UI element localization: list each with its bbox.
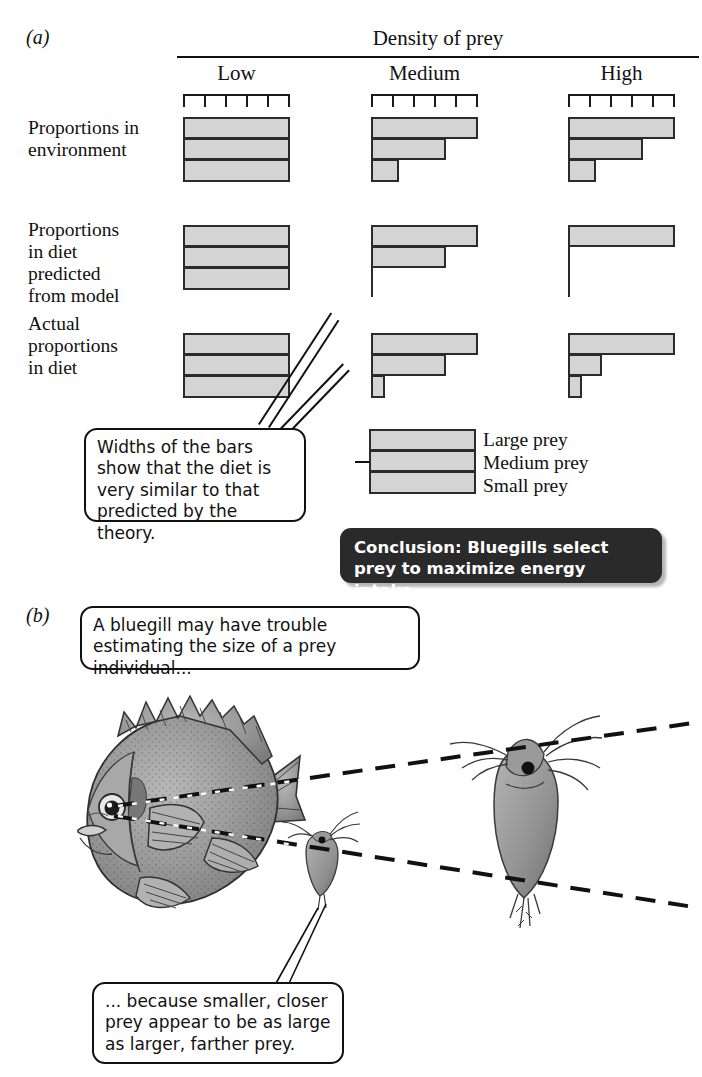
row-label-line: in diet <box>28 241 178 263</box>
axis-tick <box>652 94 654 107</box>
axis-tick <box>589 94 591 107</box>
axis-tick <box>476 94 478 107</box>
bargroup-actual-medium <box>371 333 491 398</box>
legend-leader-tick <box>355 461 370 463</box>
axis-tick <box>225 94 227 107</box>
bar-large-prey <box>183 117 290 139</box>
axis-tick <box>267 94 269 107</box>
bar-large-prey <box>568 117 675 139</box>
bar-medium-prey <box>568 138 643 160</box>
axis-tick <box>392 94 394 107</box>
row-label-line: predicted <box>28 263 178 285</box>
row-label-line: Actual <box>28 313 178 335</box>
panel-a-label: (a) <box>26 26 49 49</box>
axis-tick <box>455 94 457 107</box>
bargroup-environment-medium <box>371 117 491 182</box>
callout-leader-line-prey-2 <box>284 904 326 994</box>
legend-label-large-prey: Large prey <box>483 428 673 451</box>
bar-medium-prey <box>568 354 602 376</box>
axis-title-density-of-prey: Density of prey <box>178 26 698 51</box>
row-label-predicted-from-model: Proportions in diet predicted from model <box>28 219 178 307</box>
bargroup-actual-high <box>568 333 688 398</box>
bar-small-prey <box>183 375 290 398</box>
bar-medium-prey <box>183 138 290 160</box>
bar-medium-prey <box>371 138 446 160</box>
bluegill-prey-illustration <box>0 660 702 1000</box>
legend-swatch-medium-prey <box>369 450 476 472</box>
bar-large-prey <box>371 225 478 247</box>
bar-medium-prey <box>371 354 446 376</box>
bargroup-actual-low <box>183 333 303 398</box>
axis-baseline <box>371 94 478 96</box>
axis-tick <box>610 94 612 107</box>
callout-text: ... because smaller, closer prey appear … <box>105 991 330 1054</box>
bargroup-predicted-high <box>568 225 688 297</box>
small-daphnia-prey-icon <box>282 812 360 910</box>
row-label-actual-proportions-in-diet: Actual proportions in diet <box>28 313 178 379</box>
bar-small-prey <box>568 159 596 182</box>
bargroup-environment-low <box>183 117 303 182</box>
axis-tick <box>413 94 415 107</box>
bar-small-prey <box>183 267 290 290</box>
row-label-line: from model <box>28 285 178 307</box>
bargroup-predicted-low <box>183 225 303 290</box>
row-label-line: proportions <box>28 335 178 357</box>
row-label-proportions-in-environment: Proportions in environment <box>28 117 178 161</box>
legend-swatch-stack <box>369 429 479 495</box>
axis-tick <box>371 94 373 107</box>
axis-tick <box>246 94 248 107</box>
axis-tick <box>434 94 436 107</box>
bluegill-fish-icon <box>78 696 305 908</box>
axis-tick <box>204 94 206 107</box>
axis-tick <box>183 94 185 107</box>
legend-label-medium-prey: Medium prey <box>483 451 673 474</box>
bar-small-prey <box>183 159 290 182</box>
callout-smaller-closer-prey: ... because smaller, closer prey appear … <box>92 982 344 1064</box>
conclusion-line-1: Conclusion: Bluegills select <box>354 537 649 558</box>
large-daphnia-prey-icon <box>450 716 602 928</box>
row-label-line: Proportions in <box>28 117 178 139</box>
bar-large-prey <box>183 333 290 355</box>
row-label-line: environment <box>28 139 178 161</box>
callout-text: Widths of the bars show that the diet is… <box>97 437 271 543</box>
axis-tick <box>288 94 290 107</box>
column-header-low: Low <box>183 61 290 86</box>
bar-medium-prey <box>371 246 446 268</box>
bar-large-prey <box>371 333 478 355</box>
bar-large-prey <box>183 225 290 247</box>
row-label-line: in diet <box>28 357 178 379</box>
bargroup-environment-high <box>568 117 688 182</box>
bar-large-prey <box>568 333 675 355</box>
legend-labels: Large prey Medium prey Small prey <box>483 428 673 498</box>
bar-small-prey <box>371 375 385 398</box>
bar-large-prey <box>568 225 675 247</box>
row-label-line: Proportions <box>28 219 178 241</box>
bar-medium-prey <box>183 354 290 376</box>
legend-swatch-large-prey <box>369 429 476 451</box>
header-rule <box>177 56 699 58</box>
panel-b-label: (b) <box>26 604 49 627</box>
bar-medium-prey <box>183 246 290 268</box>
column-header-high: High <box>568 61 675 86</box>
axis-baseline <box>568 94 675 96</box>
axis-tick <box>631 94 633 107</box>
column-header-medium: Medium <box>371 61 478 86</box>
bar-large-prey <box>371 117 478 139</box>
callout-widths-of-bars: Widths of the bars show that the diet is… <box>84 428 306 522</box>
legend-swatch-small-prey <box>369 471 476 494</box>
legend-label-small-prey: Small prey <box>483 474 673 497</box>
conclusion-line-2: prey to maximize energy intake. <box>354 558 649 601</box>
bar-small-prey <box>371 159 399 182</box>
bargroup-predicted-medium <box>371 225 491 297</box>
axis-tick <box>568 94 570 107</box>
axis-tick <box>673 94 675 107</box>
bar-small-prey <box>568 375 582 398</box>
conclusion-banner: Conclusion: Bluegills select prey to max… <box>340 528 662 583</box>
axis-baseline <box>183 94 290 96</box>
